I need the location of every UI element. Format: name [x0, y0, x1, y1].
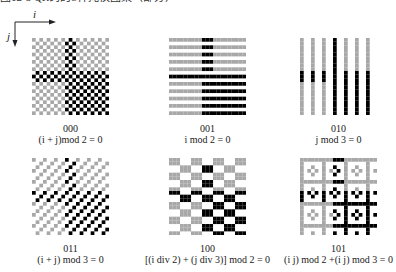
mask-code-label: 000 — [6, 123, 136, 134]
mask-formula-label: (i j) mod 2 +(i j) mod 3 = 0 — [254, 254, 396, 265]
arrow-down-icon — [13, 40, 18, 47]
mask-pattern-011 — [32, 158, 109, 235]
mask-formula-label: j mod 3 = 0 — [254, 134, 396, 145]
axis-i-label: i — [33, 8, 36, 20]
arrow-right-icon — [49, 20, 56, 25]
mask-code-label: 101 — [274, 243, 396, 254]
mask-code-label: 001 — [143, 123, 273, 134]
mask-code-label: 011 — [6, 243, 136, 254]
mask-code-label: 010 — [274, 123, 396, 134]
mask-pattern-101 — [300, 158, 377, 235]
mask-pattern-010 — [300, 38, 377, 115]
mask-pattern-001 — [169, 38, 246, 115]
mask-pattern-100 — [169, 158, 246, 235]
mask-code-label: 100 — [143, 243, 273, 254]
mask-pattern-000 — [32, 38, 109, 115]
axis-j-label: j — [7, 30, 10, 42]
